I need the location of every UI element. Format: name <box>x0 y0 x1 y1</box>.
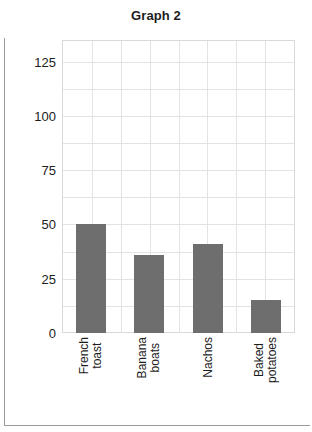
x-axis: FrenchtoastBananaboatsNachosBakedpotatoe… <box>62 335 295 427</box>
bar-banana-boats[interactable] <box>134 255 164 333</box>
y-axis-tick-label: 0 <box>4 326 56 341</box>
x-axis-slot: Bananaboats <box>120 335 178 427</box>
bar-slot <box>179 40 237 333</box>
bar-slot <box>237 40 295 333</box>
bar-slot <box>62 40 120 333</box>
x-axis-tick-label: Bakedpotatoes <box>253 337 279 383</box>
x-axis-tick-label-line: toast <box>91 337 104 374</box>
y-axis-tick-label: 100 <box>4 108 56 123</box>
x-axis-tick-label-line: boats <box>149 337 162 378</box>
bar-french-toast[interactable] <box>76 224 106 333</box>
x-axis-tick-label: Bananaboats <box>136 337 162 378</box>
bar-baked-potatoes[interactable] <box>251 300 281 333</box>
x-axis-tick-label-line: Baked <box>253 337 266 383</box>
x-axis-tick-label-line: Nachos <box>201 337 214 378</box>
chart-title: Graph 2 <box>0 8 312 23</box>
y-axis: 0255075100125 <box>0 40 56 333</box>
bar-nachos[interactable] <box>193 244 223 333</box>
y-axis-tick-label: 125 <box>4 54 56 69</box>
x-axis-tick-label-line: potatoes <box>266 337 279 383</box>
x-axis-tick-label: Nachos <box>201 337 214 378</box>
bar-slot <box>120 40 178 333</box>
bar-series <box>62 40 295 333</box>
x-axis-slot: Nachos <box>179 335 237 427</box>
x-axis-slot: Bakedpotatoes <box>237 335 295 427</box>
y-axis-tick-label: 75 <box>4 163 56 178</box>
x-axis-tick-label: Frenchtoast <box>78 337 104 374</box>
x-axis-slot: Frenchtoast <box>62 335 120 427</box>
y-axis-tick-label: 25 <box>4 271 56 286</box>
y-axis-tick-label: 50 <box>4 217 56 232</box>
